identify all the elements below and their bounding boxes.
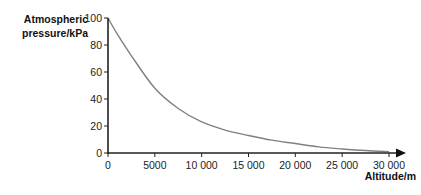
y-tick-label: 60 xyxy=(90,66,102,78)
y-axis-ticks: 020406080100 xyxy=(84,12,108,159)
x-axis-arrow-icon xyxy=(396,149,406,158)
pressure-altitude-chart: 020406080100 0500010 00015 00020 00025 0… xyxy=(0,0,421,195)
y-tick-label: 80 xyxy=(90,39,102,51)
y-tick-label: 40 xyxy=(90,93,102,105)
x-tick-label: 0 xyxy=(105,159,111,171)
y-tick-label: 20 xyxy=(90,120,102,132)
x-tick-label: 10 000 xyxy=(186,159,218,171)
y-tick-label: 0 xyxy=(96,147,102,159)
x-tick-label: 30 000 xyxy=(373,159,405,171)
x-tick-label: 5000 xyxy=(143,159,167,171)
x-tick-label: 25 000 xyxy=(326,159,358,171)
x-tick-label: 15 000 xyxy=(232,159,264,171)
pressure-curve xyxy=(108,18,389,152)
x-tick-label: 20 000 xyxy=(279,159,311,171)
y-tick-label: 100 xyxy=(84,12,102,24)
x-axis-ticks: 0500010 00015 00020 00025 00030 000 xyxy=(105,153,405,171)
